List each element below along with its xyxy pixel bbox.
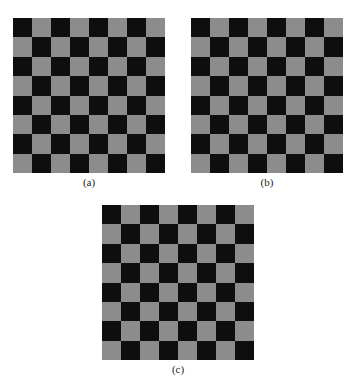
light-square (140, 224, 159, 243)
light-square (121, 283, 140, 302)
light-square (267, 37, 286, 56)
checkerboard-c (102, 205, 254, 360)
dark-square (235, 263, 254, 282)
dark-square (121, 224, 140, 243)
dark-square (229, 134, 248, 153)
light-square (216, 224, 235, 243)
light-square (324, 18, 343, 37)
light-square (210, 96, 229, 115)
light-square (210, 57, 229, 76)
dark-square (102, 205, 121, 224)
dark-square (140, 283, 159, 302)
dark-square (305, 134, 324, 153)
dark-square (305, 18, 324, 37)
dark-square (102, 283, 121, 302)
light-square (89, 76, 108, 95)
light-square (248, 57, 267, 76)
light-square (121, 321, 140, 340)
light-square (248, 18, 267, 37)
dark-square (235, 341, 254, 360)
light-square (267, 76, 286, 95)
dark-square (324, 76, 343, 95)
dark-square (229, 57, 248, 76)
light-square (178, 224, 197, 243)
light-square (127, 76, 146, 95)
light-square (70, 96, 89, 115)
light-square (229, 115, 248, 134)
light-square (178, 263, 197, 282)
light-square (140, 341, 159, 360)
light-square (178, 302, 197, 321)
dark-square (70, 115, 89, 134)
dark-square (127, 96, 146, 115)
dark-square (146, 37, 165, 56)
light-square (51, 37, 70, 56)
light-square (108, 57, 127, 76)
light-square (127, 37, 146, 56)
dark-square (210, 154, 229, 173)
dark-square (121, 263, 140, 282)
dark-square (197, 302, 216, 321)
light-square (191, 37, 210, 56)
dark-square (324, 115, 343, 134)
light-square (70, 18, 89, 37)
dark-square (159, 341, 178, 360)
light-square (197, 321, 216, 340)
light-square (197, 205, 216, 224)
dark-square (305, 57, 324, 76)
light-square (235, 283, 254, 302)
light-square (146, 57, 165, 76)
dark-square (197, 224, 216, 243)
dark-square (108, 154, 127, 173)
light-square (89, 115, 108, 134)
dark-square (140, 321, 159, 340)
dark-square (51, 96, 70, 115)
dark-square (178, 244, 197, 263)
dark-square (286, 76, 305, 95)
light-square (229, 37, 248, 56)
light-square (159, 244, 178, 263)
light-square (140, 263, 159, 282)
dark-square (13, 96, 32, 115)
dark-square (216, 283, 235, 302)
dark-square (146, 76, 165, 95)
dark-square (102, 321, 121, 340)
light-square (248, 134, 267, 153)
light-square (121, 244, 140, 263)
light-square (159, 205, 178, 224)
dark-square (159, 263, 178, 282)
dark-square (89, 57, 108, 76)
dark-square (127, 57, 146, 76)
dark-square (146, 154, 165, 173)
dark-square (235, 224, 254, 243)
light-square (324, 96, 343, 115)
dark-square (178, 205, 197, 224)
dark-square (229, 96, 248, 115)
light-square (32, 57, 51, 76)
dark-square (127, 18, 146, 37)
dark-square (229, 18, 248, 37)
light-square (191, 154, 210, 173)
dark-square (159, 302, 178, 321)
light-square (159, 283, 178, 302)
light-square (127, 154, 146, 173)
dark-square (121, 341, 140, 360)
light-square (146, 134, 165, 153)
dark-square (248, 37, 267, 56)
dark-square (248, 76, 267, 95)
dark-square (216, 321, 235, 340)
dark-square (32, 76, 51, 95)
light-square (197, 244, 216, 263)
dark-square (216, 205, 235, 224)
light-square (305, 154, 324, 173)
light-square (229, 154, 248, 173)
light-square (286, 96, 305, 115)
dark-square (178, 283, 197, 302)
dark-square (89, 96, 108, 115)
light-square (51, 115, 70, 134)
light-square (210, 134, 229, 153)
dark-square (305, 96, 324, 115)
light-square (210, 18, 229, 37)
dark-square (13, 18, 32, 37)
light-square (159, 321, 178, 340)
